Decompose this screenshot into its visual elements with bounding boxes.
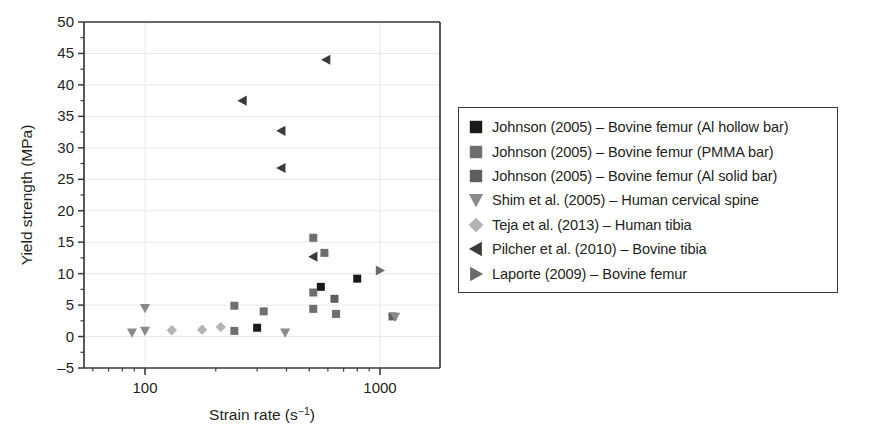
y-tick-label: 20	[57, 202, 74, 219]
legend-item[interactable]: Teja et al. (2013) – Human tibia	[466, 213, 831, 237]
data-point	[320, 249, 328, 257]
data-point	[309, 234, 317, 242]
y-tick-label: 45	[57, 44, 74, 61]
legend-item[interactable]: Johnson (2005) – Bovine femur (Al hollow…	[466, 115, 831, 139]
data-point	[140, 327, 150, 336]
y-tick-label: 30	[57, 139, 74, 156]
data-point	[321, 55, 330, 65]
legend-item-label: Pilcher et al. (2010) – Bovine tibia	[492, 241, 707, 257]
y-tick-label: 35	[57, 107, 74, 124]
data-point	[197, 324, 207, 334]
y-tick-label: 15	[57, 233, 74, 250]
legend-item-label: Laporte (2009) – Bovine femur	[492, 266, 687, 282]
legend-item[interactable]: Johnson (2005) – Bovine femur (PMMA bar)	[466, 139, 831, 163]
legend-marker-diamond-icon	[466, 215, 486, 235]
legend-item[interactable]: Johnson (2005) – Bovine femur (Al solid …	[466, 164, 831, 188]
data-point	[309, 305, 317, 313]
legend-marker-triangle-down-icon	[466, 190, 486, 210]
data-point	[276, 163, 285, 173]
data-point	[317, 283, 325, 291]
y-tick-label: 5	[66, 296, 74, 313]
y-tick-label: –5	[57, 359, 74, 376]
y-axis-title: Yield strength (MPa)	[18, 125, 35, 266]
x-axis-title: Strain rate (s−1)	[209, 405, 315, 423]
chart-legend: Johnson (2005) – Bovine femur (Al hollow…	[458, 107, 838, 293]
legend-item-label: Johnson (2005) – Bovine femur (Al hollow…	[492, 119, 788, 135]
data-point	[260, 307, 268, 315]
legend-item[interactable]: Laporte (2009) – Bovine femur	[466, 261, 831, 285]
data-point	[330, 295, 338, 303]
legend-item-label: Teja et al. (2013) – Human tibia	[492, 217, 692, 233]
data-point	[216, 322, 226, 332]
legend-item-label: Johnson (2005) – Bovine femur (PMMA bar)	[492, 144, 774, 160]
x-tick-label: 1000	[363, 379, 396, 396]
y-tick-label: 0	[66, 328, 74, 345]
figure-root: –5051015202530354045501001000Strain rate…	[0, 0, 879, 448]
data-point	[230, 327, 238, 335]
legend-marker-square-icon	[466, 166, 486, 186]
data-point	[308, 252, 317, 262]
plot-area: –5051015202530354045501001000Strain rate…	[0, 0, 455, 448]
data-point	[276, 126, 285, 136]
data-point	[253, 324, 261, 332]
scatter-plot-svg: –5051015202530354045501001000Strain rate…	[0, 0, 455, 448]
legend-marker-square-icon	[466, 117, 486, 137]
legend-marker-square-icon	[466, 142, 486, 162]
data-point	[230, 302, 238, 310]
data-point	[332, 310, 340, 318]
data-point	[237, 96, 246, 106]
legend-marker-triangle-right-icon	[466, 264, 486, 284]
y-tick-label: 40	[57, 76, 74, 93]
y-tick-label: 50	[57, 13, 74, 30]
data-point	[140, 304, 150, 313]
legend-item[interactable]: Shim et al. (2005) – Human cervical spin…	[466, 188, 831, 212]
data-point	[167, 325, 177, 335]
data-point	[309, 289, 317, 297]
legend-marker-triangle-left-icon	[466, 239, 486, 259]
legend-item-label: Shim et al. (2005) – Human cervical spin…	[492, 192, 759, 208]
x-tick-label: 100	[132, 379, 157, 396]
legend-item[interactable]: Pilcher et al. (2010) – Bovine tibia	[466, 237, 831, 261]
data-point	[353, 275, 361, 283]
y-tick-label: 25	[57, 170, 74, 187]
y-tick-label: 10	[57, 265, 74, 282]
legend-item-label: Johnson (2005) – Bovine femur (Al solid …	[492, 168, 777, 184]
